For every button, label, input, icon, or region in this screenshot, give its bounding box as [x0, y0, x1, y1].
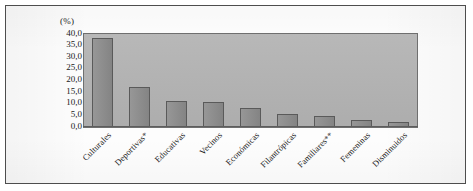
x-axis-category-label: Deportivas* — [112, 130, 150, 168]
y-axis-tick-label: 40,0 — [46, 29, 82, 38]
bar — [92, 38, 113, 128]
x-axis-category-label: Filantrópicas — [258, 130, 298, 170]
y-axis-tick-label: 15,0 — [46, 87, 82, 96]
figure-frame: (%) 40,035,030,025,020,015,010,05,00,0 C… — [5, 5, 466, 184]
x-axis-category-label: Culturales — [80, 130, 113, 163]
bar — [203, 102, 224, 127]
y-axis-unit-label: (%) — [60, 16, 74, 26]
x-axis-category-label: Económicas — [223, 130, 260, 167]
x-axis-category-label: Familiares** — [295, 130, 335, 170]
x-axis-category-label: Vecinos — [197, 130, 224, 157]
y-axis-tick-label: 25,0 — [46, 63, 82, 72]
y-axis-tick-label: 30,0 — [46, 52, 82, 61]
x-axis-category-label: Femeninas — [338, 130, 372, 164]
y-axis-tick-label: 20,0 — [46, 75, 82, 84]
bar — [166, 101, 187, 127]
y-axis-tick-labels: 40,035,030,025,020,015,010,05,00,0 — [46, 28, 82, 127]
plot-area — [83, 33, 418, 128]
bars-container — [84, 34, 417, 127]
y-axis-tick-label: 10,0 — [46, 98, 82, 107]
bar-chart: (%) 40,035,030,025,020,015,010,05,00,0 C… — [6, 6, 467, 185]
x-axis-category-labels: CulturalesDeportivas*EducativasVecinosEc… — [6, 126, 467, 185]
x-axis-category-label: Disminuidos — [370, 130, 409, 169]
bar — [277, 114, 298, 127]
bar — [129, 87, 150, 127]
y-axis-tick-label: 5,0 — [46, 110, 82, 119]
bar — [240, 108, 261, 127]
x-axis-category-label: Educativas — [152, 130, 186, 164]
y-axis-tick-label: 35,0 — [46, 40, 82, 49]
